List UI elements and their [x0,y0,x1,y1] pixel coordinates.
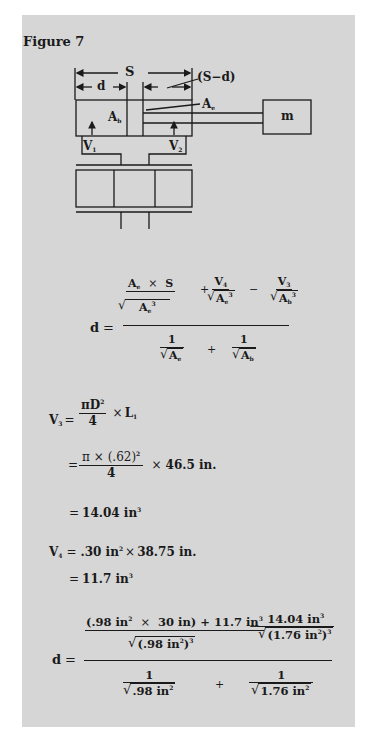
eq-general-numerator: Ae × S [126,277,175,292]
eq-numeric-den1: 1√.98 in2 [121,668,177,699]
label-rod-area: Ae [202,97,215,111]
eq-general-den-plus: + [207,343,216,356]
eq-numeric-numerator-left: (.98 in2 × 30 in) + 11.7 in3 [85,615,264,631]
label-flow2: V2 [169,139,183,153]
eq-general-den1: 1√Ae [158,333,185,363]
label-bore-area: Ab [108,110,122,124]
eq-numeric-den-plus: + [215,678,224,691]
eq-general-den2: 1√Ab [230,333,258,363]
eq-general-main-fraction-bar [123,325,289,326]
eq-general-term3: V3√Ab3 [268,275,300,306]
eq-general-term2: V4√Ae3 [205,275,237,306]
eq-general-term1-den: √Ae3 [118,299,170,315]
eq-v3-substitution: =π × (.62)24 ×46.5 in. [67,450,216,482]
eq-numeric-numerator-left-den: √(.98 in2)3 [128,636,195,651]
label-flow1: V1 [83,139,97,153]
eq-v3-formula: πD24 ×L1 [79,398,137,430]
hydraulic-cylinder-diagram [0,0,375,250]
eq-general-lhs: d= [90,320,118,335]
eq-v4-result: =11.7 in3 [69,572,133,586]
label-stroke: S [125,64,134,79]
eq-numeric-lhs: d= [52,652,80,667]
eq-numeric-term2: 14.04 in3√(1.76 in2)3 [256,612,335,643]
label-displacement: d [97,79,105,93]
eq-general-minus: − [249,283,258,296]
label-mass: m [281,109,294,123]
eq-v3-lhs: V3= [49,413,77,427]
label-remaining-stroke: (S−d) [197,70,235,84]
eq-v3-result: =14.04 in3 [69,506,141,520]
eq-numeric-den2: 1√1.76 in2 [249,668,313,699]
eq-numeric-main-fraction-bar [84,660,332,661]
eq-v4: V4=.30 in2×38.75 in. [49,545,196,559]
